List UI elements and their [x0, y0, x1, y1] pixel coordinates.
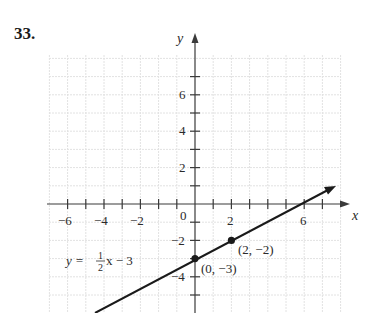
- point-label: (0, −3): [201, 261, 237, 276]
- y-tick-label: 2: [179, 160, 186, 175]
- y-axis-arrow-icon: [192, 33, 199, 43]
- x-axis: [47, 199, 350, 209]
- equation-lhs: y =: [64, 253, 84, 268]
- origin-label: 0: [180, 208, 187, 223]
- y-tick-label: 6: [179, 87, 186, 102]
- point-2-neg2: [228, 237, 235, 244]
- y-axis: [190, 33, 200, 313]
- y-tick-label: −2: [171, 233, 185, 248]
- equation-numerator: 1: [98, 250, 103, 261]
- point-0-neg3: [191, 255, 198, 262]
- y-axis-label: y: [175, 31, 184, 46]
- x-tick-label: 6: [300, 213, 307, 228]
- x-tick-label: −2: [130, 213, 144, 228]
- equation-rhs: x − 3: [106, 253, 133, 268]
- x-axis-arrow-icon: [340, 201, 350, 208]
- plotted-line: [95, 186, 336, 313]
- x-tick-label: 2: [227, 213, 234, 228]
- equation-denominator: 2: [98, 262, 103, 273]
- x-tick-label: −4: [94, 213, 108, 228]
- x-tick-label: −6: [58, 213, 72, 228]
- point-label: (2, −2): [238, 242, 274, 257]
- x-axis-label: x: [351, 208, 359, 223]
- coordinate-plane: y x −6 −4 −2 0 2 6 6 4 2 −2 −4 (0, −3) (…: [0, 0, 370, 313]
- y-tick-label: 4: [179, 123, 186, 138]
- line-arrow-icon: [324, 186, 336, 195]
